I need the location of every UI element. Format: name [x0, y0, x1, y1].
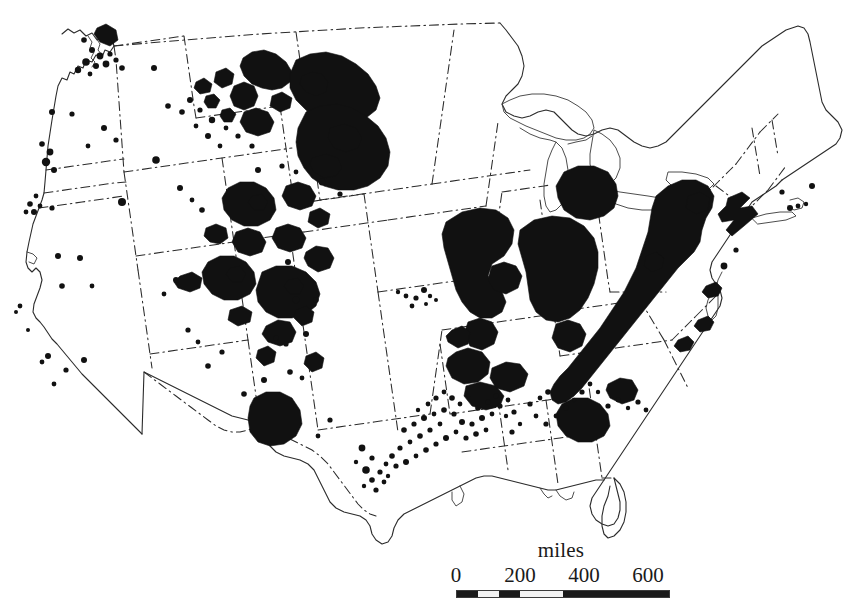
scale-tick-labels: 0 200 400 600 [436, 563, 686, 587]
coal-deposits-layer [14, 24, 815, 493]
scale-tick-600: 600 [632, 563, 664, 587]
map-canvas: .coast{fill:none;stroke:#2b2b2b;stroke-w… [0, 0, 864, 609]
scale-tick-0: 0 [451, 563, 462, 587]
scale-bar-graphic [456, 590, 670, 598]
scale-tick-400: 400 [568, 563, 600, 587]
coal-fields-map: .coast{fill:none;stroke:#2b2b2b;stroke-w… [0, 0, 864, 609]
scale-label: miles [436, 538, 686, 562]
scale-tick-200: 200 [504, 563, 536, 587]
scale-bar: miles 0 200 400 600 [436, 538, 686, 600]
